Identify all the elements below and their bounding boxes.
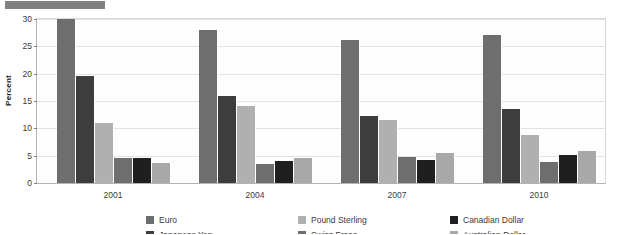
x-tick-label: 2007	[388, 190, 407, 200]
legend-label: Euro	[159, 215, 177, 225]
bar	[199, 30, 218, 183]
legend-item[interactable]: Swiss Franc	[298, 230, 450, 235]
bar	[398, 157, 417, 183]
bar	[521, 135, 540, 183]
legend-swatch-icon	[298, 216, 306, 224]
bar	[436, 153, 455, 183]
bar	[114, 158, 133, 183]
x-axis: 2001200420072010	[36, 186, 606, 202]
legend-item[interactable]: Canadian Dollar	[450, 215, 602, 225]
legend-item[interactable]: Australian Dollar	[450, 230, 602, 235]
x-tick-label: 2001	[104, 190, 123, 200]
bar	[540, 162, 559, 183]
y-axis-title: Percent	[4, 61, 13, 121]
legend-swatch-icon	[146, 216, 154, 224]
bar	[379, 120, 398, 183]
bar	[578, 151, 597, 183]
bar	[483, 35, 502, 183]
y-tick-label: 30	[23, 14, 32, 24]
bar	[237, 106, 256, 183]
bar	[559, 155, 578, 183]
bar-group-2007	[341, 19, 455, 183]
y-tick-label: 10	[23, 123, 32, 133]
header-marker-bar	[5, 1, 105, 9]
bar-chart-figure: Percent 051015202530 2001200420072010 Eu…	[0, 12, 625, 234]
y-tick-label: 20	[23, 69, 32, 79]
legend-item[interactable]: Japanese Yen	[146, 230, 298, 235]
legend-label: Pound Sterling	[311, 215, 367, 225]
bar	[76, 76, 95, 183]
legend-item[interactable]: Pound Sterling	[298, 215, 450, 225]
bar	[341, 40, 360, 183]
x-tick-label: 2010	[530, 190, 549, 200]
bar	[360, 116, 379, 183]
x-tick-label: 2004	[246, 190, 265, 200]
bar-group-2010	[483, 19, 597, 183]
chart-legend: EuroPound SterlingCanadian DollarJapanes…	[146, 212, 546, 234]
bar	[294, 158, 313, 183]
y-tick-label: 25	[23, 41, 32, 51]
legend-swatch-icon	[298, 231, 306, 235]
bar	[152, 163, 171, 183]
bar	[95, 123, 114, 183]
legend-label: Australian Dollar	[463, 230, 525, 235]
bar	[275, 161, 294, 183]
legend-label: Japanese Yen	[159, 230, 212, 235]
bar-group-2004	[199, 19, 313, 183]
y-tick-mark	[34, 183, 37, 184]
legend-item[interactable]: Euro	[146, 215, 298, 225]
bar	[256, 164, 275, 183]
bar	[502, 109, 521, 183]
bar-group-2001	[57, 19, 171, 183]
bar	[417, 160, 436, 184]
legend-swatch-icon	[146, 231, 154, 235]
y-tick-label: 15	[23, 96, 32, 106]
bar	[218, 96, 237, 183]
legend-swatch-icon	[450, 231, 458, 235]
plot-area: 051015202530	[36, 18, 606, 184]
y-tick-label: 5	[27, 151, 32, 161]
legend-swatch-icon	[450, 216, 458, 224]
bars-layer	[37, 19, 605, 183]
legend-label: Swiss Franc	[311, 230, 357, 235]
y-tick-label: 0	[27, 178, 32, 188]
bar	[133, 158, 152, 183]
legend-label: Canadian Dollar	[463, 215, 524, 225]
bar	[57, 19, 76, 183]
